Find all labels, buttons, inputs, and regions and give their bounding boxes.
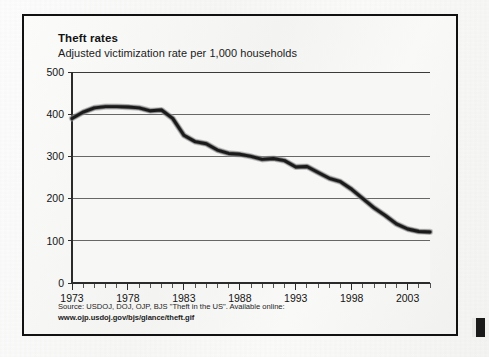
- svg-text:100: 100: [46, 235, 64, 247]
- svg-text:1993: 1993: [284, 292, 308, 304]
- scan-edge-artifact: [476, 318, 485, 337]
- source-citation-text: Source: USDOJ, DOJ, OJP, BJS "Theft in t…: [58, 301, 285, 312]
- svg-text:200: 200: [46, 192, 64, 204]
- figure-frame: Theft rates Adjusted victimization rate …: [22, 14, 458, 336]
- figure-inner-area: Theft rates Adjusted victimization rate …: [24, 16, 456, 334]
- svg-text:2003: 2003: [396, 292, 420, 304]
- x-axis: [72, 283, 430, 290]
- plot-area: 0100200300400500 19731978198319881993199…: [24, 16, 460, 338]
- line-chart-svg: 0100200300400500 19731978198319881993199…: [24, 16, 460, 338]
- svg-text:1998: 1998: [340, 292, 364, 304]
- y-axis-tick-labels: 0100200300400500: [46, 66, 64, 289]
- svg-text:0: 0: [58, 277, 64, 289]
- svg-text:400: 400: [46, 108, 64, 120]
- source-url-link[interactable]: www.ojp.usdoj.gov/bjs/glance/theft.gif: [58, 312, 285, 323]
- y-axis: [68, 72, 72, 283]
- svg-text:500: 500: [46, 66, 64, 78]
- source-note: Source: USDOJ, DOJ, OJP, BJS "Theft in t…: [58, 301, 285, 323]
- svg-text:300: 300: [46, 150, 64, 162]
- grid-lines: [72, 72, 430, 283]
